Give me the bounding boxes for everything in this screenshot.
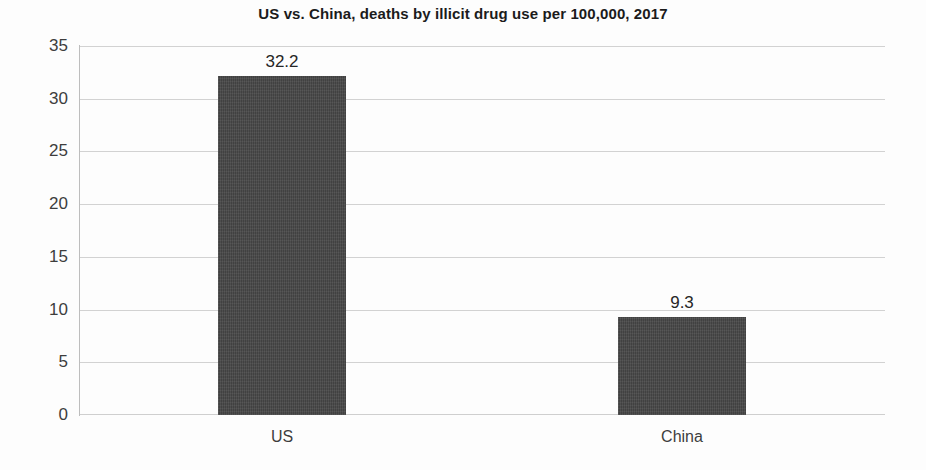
x-label-china: China [661,428,703,446]
y-tick-label-15: 15 [8,247,68,267]
y-tick-label-10: 10 [8,300,68,320]
y-tick-label-5: 5 [8,352,68,372]
bar-value-china: 9.3 [670,293,694,313]
x-label-us: US [271,428,293,446]
gridline-20 [80,204,885,205]
gridline-15 [80,257,885,258]
bar-chart: US vs. China, deaths by illicit drug use… [0,0,926,470]
y-tick-label-30: 30 [8,89,68,109]
plot-area [80,46,885,415]
y-axis-tick-labels: 35 30 25 20 15 10 5 0 [0,46,68,415]
gridline-25 [80,151,885,152]
y-tick-label-0: 0 [8,405,68,425]
y-tick-label-25: 25 [8,141,68,161]
y-tick-label-20: 20 [8,194,68,214]
gridline-0-baseline [80,414,885,415]
chart-title: US vs. China, deaths by illicit drug use… [0,5,926,22]
gridline-30 [80,99,885,100]
bar-china[interactable] [618,317,746,415]
bar-value-us: 32.2 [265,52,298,72]
bar-us[interactable] [218,76,346,415]
gridline-5 [80,362,885,363]
gridline-35 [80,46,885,47]
y-tick-label-35: 35 [8,36,68,56]
gridline-10 [80,310,885,311]
